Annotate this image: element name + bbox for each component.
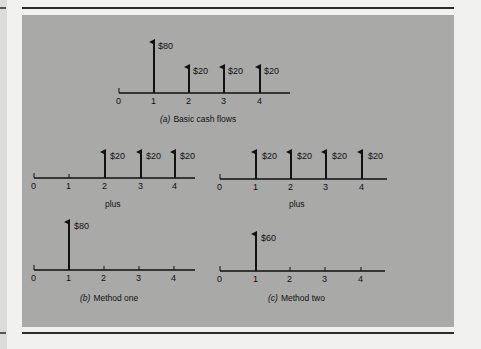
svg-text:0: 0 — [217, 182, 222, 192]
svg-text:4: 4 — [359, 182, 364, 192]
caption: (c)Method two — [268, 293, 325, 303]
svg-text:2: 2 — [102, 181, 107, 191]
caption: (b)Method one — [80, 293, 139, 303]
flow-label: $20 — [180, 151, 195, 161]
svg-text:4: 4 — [171, 273, 176, 283]
svg-text:2: 2 — [101, 273, 106, 283]
svg-text:3: 3 — [323, 182, 328, 192]
svg-text:0: 0 — [31, 181, 36, 191]
diagram-method-two-remaining: $20 $20 $20 $20 0 1 2 3 4 plus — [217, 151, 387, 209]
svg-text:1: 1 — [66, 273, 71, 283]
tick-label: 3 — [221, 96, 226, 106]
tick-label: 2 — [186, 96, 191, 106]
flow-label: $20 — [110, 151, 125, 161]
svg-text:4: 4 — [358, 274, 363, 284]
svg-text:1: 1 — [253, 182, 258, 192]
caption: (a)Basic cash flows — [160, 114, 236, 124]
svg-text:0: 0 — [217, 274, 222, 284]
svg-text:1: 1 — [253, 274, 258, 284]
svg-text:3: 3 — [136, 273, 141, 283]
tick-label: 0 — [116, 96, 121, 106]
flow-label: $20 — [264, 66, 279, 76]
flow-label: $20 — [262, 151, 277, 161]
svg-text:1: 1 — [66, 181, 71, 191]
diagram-basic-cash-flows: $80 $20 $20 $20 0 1 2 3 4 (a)Basic cash … — [116, 41, 290, 124]
flow-label: $80 — [158, 41, 173, 51]
flow-label: $80 — [74, 221, 89, 231]
svg-text:4: 4 — [172, 181, 177, 191]
svg-text:0: 0 — [31, 273, 36, 283]
svg-text:3: 3 — [138, 181, 143, 191]
plus-label: plus — [105, 199, 121, 209]
svg-text:2: 2 — [288, 182, 293, 192]
flow-label: $60 — [261, 233, 276, 243]
diagram-method-two: $60 0 1 2 3 4 (c)Method two — [217, 233, 385, 303]
flow-label: $20 — [297, 151, 312, 161]
svg-text:2: 2 — [287, 274, 292, 284]
tick-label: 1 — [151, 96, 156, 106]
diagram-method-one: $80 0 1 2 3 4 (b)Method one — [31, 221, 195, 303]
svg-text:3: 3 — [322, 274, 327, 284]
plus-label: plus — [289, 199, 305, 209]
cash-flow-figure: $80 $20 $20 $20 0 1 2 3 4 (a)Basic cash … — [0, 0, 481, 349]
diagram-method-one-remaining: $20 $20 $20 0 1 2 3 4 plus — [31, 151, 195, 209]
flow-label: $20 — [368, 151, 383, 161]
flow-label: $20 — [193, 66, 208, 76]
flow-label: $20 — [228, 66, 243, 76]
tick-label: 4 — [257, 96, 262, 106]
flow-label: $20 — [332, 151, 347, 161]
flow-label: $20 — [146, 151, 161, 161]
